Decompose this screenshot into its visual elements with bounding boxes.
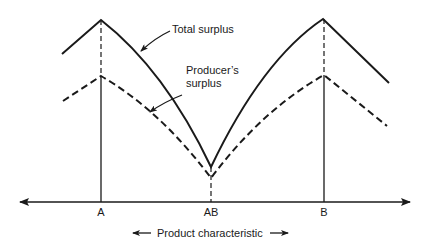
axis-caption-label: Product characteristic — [157, 227, 263, 239]
producer-surplus-pointer-arrow — [150, 95, 182, 112]
total-surplus-curve — [62, 19, 389, 167]
tick-label-a: A — [97, 206, 105, 218]
tick-label-ab: AB — [204, 206, 219, 218]
tick-label-b: B — [320, 206, 327, 218]
surplus-diagram: Total surplus Producer’s surplus A AB B … — [0, 0, 425, 248]
total-surplus-label: Total surplus — [172, 23, 234, 35]
producer-surplus-curve — [63, 75, 387, 178]
producer-surplus-label-line2: surplus — [186, 77, 222, 89]
total-surplus-pointer-arrow — [141, 31, 170, 51]
producer-surplus-label-line1: Producer’s — [186, 64, 239, 76]
